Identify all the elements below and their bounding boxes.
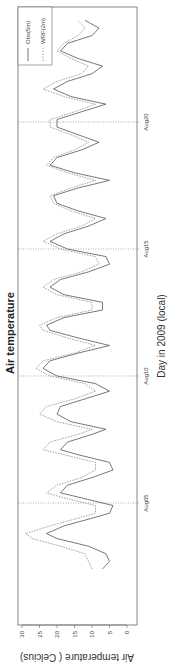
y-tick-label: 25 (37, 630, 43, 637)
legend-obs-label: Obs(5m) (25, 21, 31, 44)
y-tick-label: 30 (19, 630, 25, 637)
x-axis-label: Day in 2009 (local) (156, 294, 167, 377)
y-axis-label: Air temperature ( Celcius) (20, 652, 134, 663)
legend-wrf-label: WRF(2m) (40, 18, 46, 44)
legend: Obs(5m) WRF(2m) (18, 7, 52, 65)
chart-title: Air temperature (4, 292, 16, 374)
y-tick-label: 20 (54, 630, 60, 637)
obs-series-line (43, 20, 113, 569)
x-tick-label: Aug20 (143, 113, 149, 131)
wrf-series-line (26, 20, 100, 569)
y-tick-label: 5 (107, 630, 113, 634)
x-tick-label: Aug10 (143, 367, 149, 385)
date-gridlines (18, 122, 140, 503)
x-tick-label: Aug05 (143, 494, 149, 512)
x-tick-label: Aug15 (143, 240, 149, 258)
x-axis: Aug05Aug10Aug15Aug20 (143, 113, 149, 512)
air-temperature-chart: Air temperature 051015202530 Aug05Aug10A… (0, 0, 185, 666)
y-tick-label: 10 (89, 630, 95, 637)
rotated-chart-frame: Air temperature 051015202530 Aug05Aug10A… (0, 0, 185, 666)
data-series (26, 20, 114, 569)
y-axis: 051015202530 (19, 625, 130, 638)
y-tick-label: 0 (124, 630, 130, 634)
y-tick-label: 15 (72, 630, 78, 637)
